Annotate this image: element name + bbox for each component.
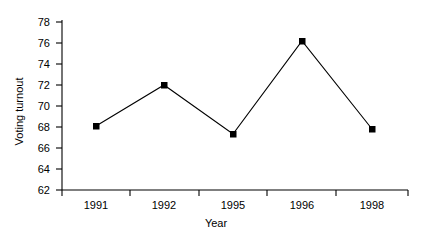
data-point-1995	[230, 131, 237, 138]
y-tick-label-78: 78	[28, 17, 50, 28]
y-axis-title: Voting turnout	[14, 57, 25, 167]
y-tick-label-70: 70	[28, 101, 50, 112]
y-tick-label-76: 76	[28, 38, 50, 49]
y-tick-label-62: 62	[28, 185, 50, 196]
x-tick-label-1996: 1996	[272, 200, 332, 211]
x-tick-label-1992: 1992	[134, 200, 194, 211]
x-tick-label-1995: 1995	[203, 200, 263, 211]
y-tick-label-68: 68	[28, 122, 50, 133]
data-point-1996	[299, 38, 306, 45]
line-chart-plot	[0, 0, 432, 250]
y-tick-label-64: 64	[28, 164, 50, 175]
x-axis-title: Year	[0, 218, 432, 229]
x-tick-label-1998: 1998	[342, 200, 402, 211]
y-tick-label-66: 66	[28, 143, 50, 154]
data-point-1998	[369, 126, 376, 133]
y-axis-ticks	[56, 22, 62, 190]
x-tick-label-1991: 1991	[66, 200, 126, 211]
x-axis-ticks	[62, 190, 408, 196]
y-tick-label-74: 74	[28, 59, 50, 70]
data-line-voting-turnout	[96, 41, 372, 134]
chart-container: 78 76 74 72 70 68 66 64 62 1991 1992 199…	[0, 0, 432, 250]
data-point-1991	[93, 123, 100, 130]
data-point-1992	[161, 82, 168, 89]
data-markers	[93, 38, 376, 138]
y-tick-label-72: 72	[28, 80, 50, 91]
